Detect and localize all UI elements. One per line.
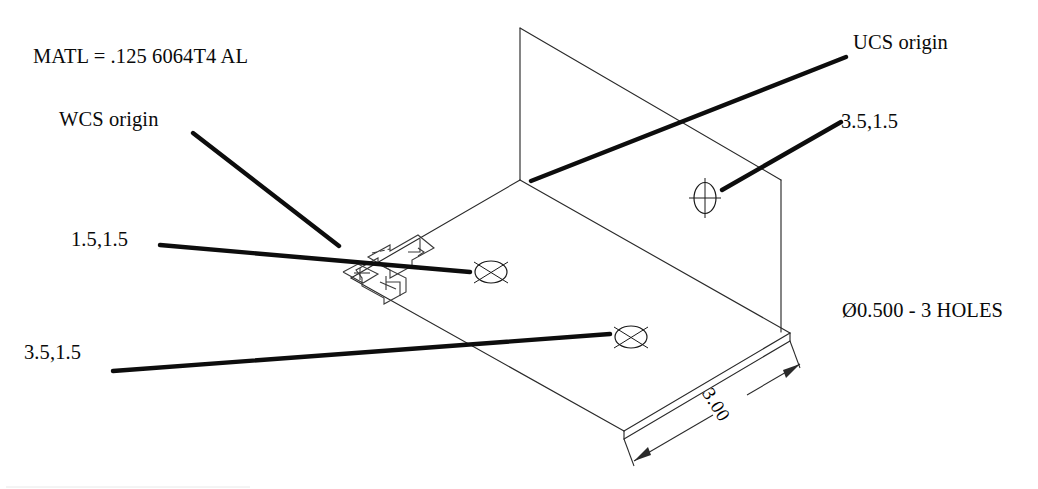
holes-group (474, 178, 721, 348)
drawing-canvas: MATL = .125 6064T4 AL WCS origin UCS ori… (0, 0, 1038, 489)
leader-3-5-1-5-plate (113, 334, 610, 371)
origin-box-icon (343, 264, 378, 283)
plate-front-left-edge (351, 278, 624, 431)
hole-plate-far (614, 326, 648, 348)
leader-1-5-1-5 (160, 245, 470, 272)
ucs-axis-icon (368, 235, 434, 278)
arrowhead-left (634, 447, 651, 461)
hole-callout-note: Ø0.500 - 3 HOLES (842, 299, 1003, 322)
leader-ucs-origin (531, 57, 846, 181)
panel-top-edge (520, 28, 781, 180)
part-outline (351, 28, 790, 439)
plate-front-right-edge (624, 333, 790, 431)
ext-line-right (790, 341, 800, 368)
leader-lines (113, 57, 846, 371)
ucs-origin-label: UCS origin (853, 31, 948, 54)
material-note: MATL = .125 6064T4 AL (33, 45, 248, 68)
leader-wcs-origin (193, 133, 339, 246)
ucs-arrow-shaft (368, 235, 434, 278)
part-geometry-layer (0, 0, 1038, 489)
arrowhead-right (783, 364, 800, 378)
wcs-tip-arrow (380, 282, 396, 289)
hole-on-panel (689, 178, 721, 218)
plate-back-right-edge (520, 180, 790, 333)
hole-plate-near (474, 261, 508, 283)
wcs-tip-square (386, 282, 400, 296)
wcs-origin-label: WCS origin (59, 108, 159, 131)
hole-label-near: 1.5,1.5 (71, 228, 128, 251)
hole-label-far: 3.5,1.5 (24, 341, 81, 364)
hole-label-panel: 3.5,1.5 (841, 110, 898, 133)
ext-line-left (624, 439, 634, 466)
